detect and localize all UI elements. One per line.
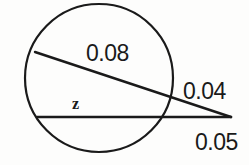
external-segment-label: 0.04 — [183, 80, 226, 103]
geometry-figure: 0.08 0.04 0.05 z — [0, 0, 249, 165]
tangent-segment-label: 0.05 — [195, 131, 238, 154]
circle-shape — [25, 4, 173, 152]
chord-label: 0.08 — [86, 42, 129, 65]
unknown-length-label: z — [72, 96, 79, 112]
